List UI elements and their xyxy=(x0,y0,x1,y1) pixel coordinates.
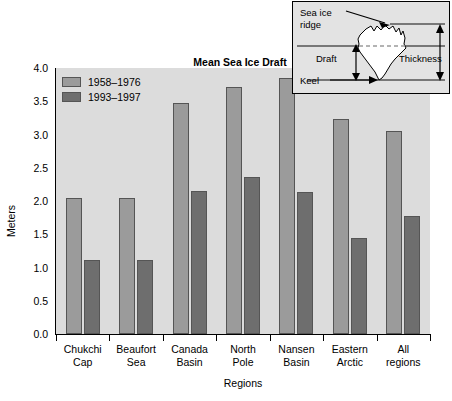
x-axis-tick-mark xyxy=(323,334,324,341)
legend-label: 1958–1976 xyxy=(88,76,141,88)
x-axis-tick-label: ChukchiCap xyxy=(64,343,102,369)
bar-group xyxy=(323,68,376,334)
x-axis-tick-label-line: Pole xyxy=(230,356,256,369)
y-axis-tick-label: 2.0 xyxy=(22,195,48,207)
inset-label-keel: Keel xyxy=(300,75,319,86)
x-axis-tick-label-line: Beaufort xyxy=(116,343,156,356)
bar[interactable] xyxy=(404,216,420,334)
legend-label: 1993–1997 xyxy=(88,91,141,103)
y-axis-tick-labels: 0.00.51.01.52.02.53.03.54.0 xyxy=(22,68,48,334)
bar[interactable] xyxy=(279,78,295,334)
bar[interactable] xyxy=(173,103,189,334)
x-axis-tick-mark xyxy=(270,334,271,341)
x-axis-tick-label: CanadaBasin xyxy=(171,343,208,369)
x-axis-tick-label: NorthPole xyxy=(230,343,256,369)
bar[interactable] xyxy=(333,119,349,334)
y-axis-tick-label: 3.5 xyxy=(22,95,48,107)
x-axis-tick-label-line: Eastern xyxy=(332,343,368,356)
x-axis-tick-label-line: Basin xyxy=(278,356,314,369)
x-axis-tick-label: Allregions xyxy=(386,343,420,369)
bar[interactable] xyxy=(226,87,242,334)
bar[interactable] xyxy=(351,238,367,334)
bar[interactable] xyxy=(386,131,402,334)
x-axis-tick-label-line: Arctic xyxy=(332,356,368,369)
x-axis-tick-label-line: North xyxy=(230,343,256,356)
y-axis-title: Meters xyxy=(5,191,17,251)
x-axis-title: Regions xyxy=(56,377,430,389)
y-axis-tick-label: 0.0 xyxy=(22,328,48,340)
x-axis-tick-mark xyxy=(163,334,164,341)
chart-figure: Meters 0.00.51.01.52.02.53.03.54.0 Mean … xyxy=(0,0,452,401)
bars-layer xyxy=(56,68,430,334)
bar[interactable] xyxy=(84,260,100,334)
x-axis-tick-label-line: Sea xyxy=(116,356,156,369)
inset-label-draft: Draft xyxy=(316,53,337,64)
inset-label-thickness: Thickness xyxy=(399,53,442,64)
bar[interactable] xyxy=(297,192,313,334)
bar[interactable] xyxy=(66,198,82,334)
y-axis-tick-label: 2.5 xyxy=(22,162,48,174)
bar-group xyxy=(109,68,162,334)
x-axis-tick-mark xyxy=(56,334,57,341)
chart-legend: 1958–19761993–1997 xyxy=(62,75,172,105)
bar[interactable] xyxy=(244,177,260,334)
keel-arrow-head xyxy=(369,76,378,84)
bar[interactable] xyxy=(191,191,207,334)
x-axis-tick-mark xyxy=(216,334,217,341)
bar-group xyxy=(216,68,269,334)
thickness-arrow-head-top xyxy=(436,24,444,33)
bar[interactable] xyxy=(137,260,153,334)
plot-frame xyxy=(56,68,430,334)
y-axis-tick-label: 4.0 xyxy=(22,62,48,74)
x-axis-tick-label: BeaufortSea xyxy=(116,343,156,369)
x-axis-tick-label-line: Basin xyxy=(171,356,208,369)
bar-group xyxy=(377,68,430,334)
y-axis-tick-label: 3.0 xyxy=(22,129,48,141)
y-axis-tick-label: 1.5 xyxy=(22,228,48,240)
y-axis-tick-label: 1.0 xyxy=(22,262,48,274)
sea-ice-diagram-svg: Sea ice ridge Draft Thickness Keel xyxy=(293,2,449,93)
x-axis-tick-mark xyxy=(430,334,431,341)
legend-item[interactable]: 1993–1997 xyxy=(62,90,172,104)
bar[interactable] xyxy=(119,198,135,334)
sea-ice-diagram-inset: Sea ice ridge Draft Thickness Keel xyxy=(292,1,450,94)
sea-ice-ridge-arrow-line xyxy=(346,11,385,23)
x-axis-tick-labels: ChukchiCapBeaufortSeaCanadaBasinNorthPol… xyxy=(56,343,430,375)
legend-swatch xyxy=(62,92,81,102)
x-axis-tick-label: NansenBasin xyxy=(278,343,314,369)
bar-group xyxy=(270,68,323,334)
x-axis-tick-label-line: Chukchi xyxy=(64,343,102,356)
legend-swatch xyxy=(62,77,81,87)
inset-label-sea-ice-ridge-line1: Sea ice xyxy=(300,7,332,18)
x-axis-tick-label-line: Canada xyxy=(171,343,208,356)
inset-label-sea-ice-ridge-line2: ridge xyxy=(300,19,321,30)
legend-item[interactable]: 1958–1976 xyxy=(62,75,172,89)
x-axis-tick-label-line: Nansen xyxy=(278,343,314,356)
bar-group xyxy=(56,68,109,334)
x-axis-tick-label-line: Cap xyxy=(64,356,102,369)
x-axis-tick-label: EasternArctic xyxy=(332,343,368,369)
x-axis-tick-mark xyxy=(377,334,378,341)
x-axis-tick-label-line: All xyxy=(386,343,420,356)
bar-group xyxy=(163,68,216,334)
x-axis-tick-marks xyxy=(56,334,431,341)
x-axis-tick-mark xyxy=(109,334,110,341)
x-axis-tick-label-line: regions xyxy=(386,356,420,369)
y-axis-tick-label: 0.5 xyxy=(22,295,48,307)
